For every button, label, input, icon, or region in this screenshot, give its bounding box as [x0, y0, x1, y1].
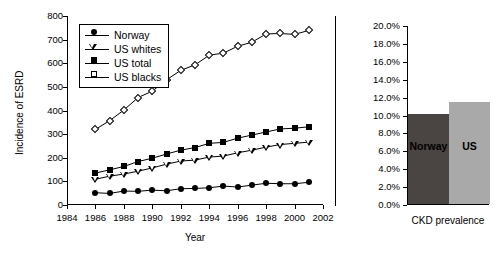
data-point-us-total [164, 151, 170, 157]
bar-chart-x-axis-title: CKD prevalence [379, 215, 503, 226]
data-point-us-whites [134, 169, 142, 175]
bar-norway: Norway [408, 114, 449, 204]
data-point-us-whites [120, 172, 128, 178]
bar-chart-y-tick-mark [403, 44, 407, 45]
data-point-norway [178, 186, 184, 192]
data-point-us-whites [291, 141, 299, 147]
bar-chart-y-tick-14.0%: 14.0% [345, 75, 400, 85]
bar-chart-y-tick-mark [403, 116, 407, 117]
bar-chart-y-tick-12.0%: 12.0% [345, 93, 400, 103]
data-point-us-whites [248, 148, 256, 154]
bar-label-us: US [449, 140, 490, 152]
data-point-norway [206, 185, 212, 191]
data-point-norway [121, 188, 127, 194]
data-point-us-total [178, 147, 184, 153]
panel-divider [335, 16, 336, 206]
bar-us: US [449, 102, 490, 204]
line-chart-x-tick-mark [209, 205, 210, 209]
bar-chart-y-tick-mark [403, 151, 407, 152]
line-chart-x-axis-title: Year [67, 232, 323, 243]
line-chart-plot-area: NorwayUS whitesUS totalUS blacks [67, 16, 323, 205]
bar-chart-y-tick-4.0%: 4.0% [345, 164, 400, 174]
bar-chart-y-tick-mark [403, 98, 407, 99]
bar-chart-panel: 0.0%2.0%4.0%6.0%8.0%10.0%12.0%14.0%16.0%… [345, 0, 503, 260]
data-point-us-whites [276, 143, 284, 149]
bar-chart-y-tick-18.0%: 18.0% [345, 39, 400, 49]
bar-chart-y-tick-6.0%: 6.0% [345, 146, 400, 156]
data-point-us-total [235, 135, 241, 141]
data-point-us-whites [262, 145, 270, 151]
bar-chart-y-tick-mark [403, 133, 407, 134]
legend-item-us-total: US total [84, 56, 161, 70]
legend-marker-icon [84, 43, 110, 55]
data-point-us-total [220, 139, 226, 145]
data-point-us-total [135, 159, 141, 165]
data-point-us-total [206, 140, 212, 146]
legend-item-us-whites: US whites [84, 42, 161, 56]
line-chart-x-tick-mark [238, 205, 239, 209]
data-point-us-total [121, 163, 127, 169]
data-point-us-whites [191, 158, 199, 164]
legend-label: US blacks [114, 71, 161, 83]
data-point-us-total [192, 145, 198, 151]
line-chart-y-tick-800: 800 [25, 11, 63, 21]
bar-chart-y-tick-mark [403, 62, 407, 63]
bar-chart-y-tick-10.0%: 10.0% [345, 111, 400, 121]
data-point-us-whites [177, 159, 185, 165]
line-chart-x-tick-mark [95, 205, 96, 209]
data-point-us-whites [163, 162, 171, 168]
bar-chart-y-tick-mark [403, 26, 407, 27]
data-point-norway [235, 184, 241, 190]
legend-marker-icon [84, 29, 110, 41]
line-series-us-total [95, 127, 308, 173]
legend-marker-icon [84, 57, 110, 69]
line-chart-x-tick-mark [295, 205, 296, 209]
data-point-us-whites [205, 155, 213, 161]
line-chart-x-tick-2002: 2002 [303, 213, 343, 223]
data-point-us-whites [148, 166, 156, 172]
line-chart-y-tick-600: 600 [25, 58, 63, 68]
data-point-us-total [249, 132, 255, 138]
data-point-us-whites [305, 140, 313, 146]
data-point-norway [164, 188, 170, 194]
bar-chart-x-axis-line [407, 204, 489, 205]
line-chart-x-tick-mark [67, 205, 68, 209]
legend-marker-icon [84, 71, 110, 83]
figure-two-panel-chart: Incidence of ESRD 0100200300400500600700… [0, 0, 503, 260]
bar-chart-y-tick-16.0%: 16.0% [345, 57, 400, 67]
bar-label-norway: Norway [408, 140, 449, 152]
line-chart-legend: NorwayUS whitesUS totalUS blacks [79, 24, 169, 88]
data-point-norway [249, 182, 255, 188]
line-chart-panel: Incidence of ESRD 0100200300400500600700… [0, 0, 345, 260]
data-point-us-whites [234, 151, 242, 157]
line-chart-x-tick-mark [323, 205, 324, 209]
bar-chart-plot-area: NorwayUS [407, 26, 489, 205]
line-chart-x-tick-mark [124, 205, 125, 209]
line-chart-y-tick-400: 400 [25, 106, 63, 116]
bar-chart-y-tick-8.0%: 8.0% [345, 128, 400, 138]
bar-chart-y-tick-mark [403, 169, 407, 170]
data-point-us-total [107, 167, 113, 173]
line-chart-y-tick-200: 200 [25, 153, 63, 163]
legend-label: Norway [114, 29, 150, 41]
line-chart-y-tick-300: 300 [25, 129, 63, 139]
legend-item-us-blacks: US blacks [84, 70, 161, 84]
bar-chart-y-tick-20.0%: 20.0% [345, 21, 400, 31]
data-point-us-total [306, 124, 312, 130]
legend-label: US whites [114, 43, 161, 55]
line-chart-x-tick-mark [152, 205, 153, 209]
line-chart-y-tick-100: 100 [25, 176, 63, 186]
data-point-us-total [277, 126, 283, 132]
bar-chart-y-tick-2.0%: 2.0% [345, 182, 400, 192]
data-point-us-whites [91, 177, 99, 183]
line-chart-y-tick-500: 500 [25, 82, 63, 92]
data-point-us-total [292, 125, 298, 131]
line-chart-x-tick-mark [266, 205, 267, 209]
data-point-us-total [263, 129, 269, 135]
data-point-us-whites [106, 174, 114, 180]
data-point-us-total [92, 170, 98, 176]
line-chart-y-tick-700: 700 [25, 35, 63, 45]
bar-chart-y-tick-mark [403, 80, 407, 81]
bar-chart-y-tick-mark [403, 187, 407, 188]
bar-chart-y-tick-0.0%: 0.0% [345, 200, 400, 210]
